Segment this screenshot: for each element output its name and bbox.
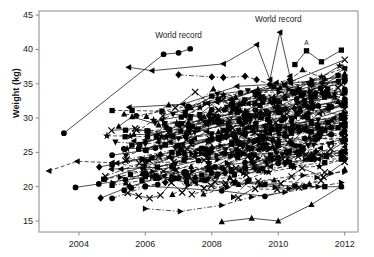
weight-vs-year-scatter-chart: Weight (kg) 1520253035404520042006200820… bbox=[0, 0, 374, 257]
data-point-square bbox=[289, 163, 294, 168]
data-point-square bbox=[269, 127, 274, 132]
y-axis-tick-label: 20 bbox=[23, 182, 33, 192]
chart-canvas: 1520253035404520042006200820102012World … bbox=[0, 0, 374, 257]
data-point-square bbox=[129, 108, 134, 113]
data-point-triangle-left bbox=[253, 42, 259, 48]
data-point-circle bbox=[249, 125, 255, 131]
x-axis-tick-label: 2010 bbox=[268, 239, 288, 249]
data-point-square bbox=[339, 47, 344, 52]
data-point-diamond bbox=[96, 163, 103, 170]
data-point-triangle-right bbox=[219, 202, 225, 208]
data-point-square bbox=[139, 157, 144, 162]
data-point-triangle-left bbox=[149, 68, 155, 74]
data-point-circle bbox=[109, 196, 115, 202]
y-axis-tick-label: 40 bbox=[23, 44, 33, 54]
annotation-world-record: World record bbox=[255, 15, 302, 24]
annotation-label-b: B bbox=[331, 96, 335, 103]
data-point-circle bbox=[109, 152, 115, 158]
data-point-square bbox=[203, 178, 208, 183]
data-point-x bbox=[136, 193, 142, 199]
data-point-circle bbox=[121, 146, 127, 152]
annotation-label-a: A bbox=[304, 39, 309, 46]
data-point-square bbox=[163, 142, 168, 147]
data-point-circle bbox=[249, 145, 255, 151]
data-point-square bbox=[282, 133, 287, 138]
data-point-square bbox=[229, 142, 234, 147]
data-point-circle bbox=[275, 140, 281, 146]
data-point-circle bbox=[123, 177, 129, 183]
y-axis-tick-label: 30 bbox=[23, 113, 33, 123]
x-axis-tick-label: 2006 bbox=[135, 239, 155, 249]
y-axis-tick-label: 25 bbox=[23, 147, 33, 157]
data-point-diamond bbox=[209, 73, 216, 80]
data-point-square bbox=[292, 183, 297, 188]
data-point-circle bbox=[329, 132, 335, 138]
data-point-square bbox=[257, 103, 262, 108]
data-point-square bbox=[322, 160, 327, 165]
data-point-triangle-up bbox=[210, 85, 216, 91]
data-point-square bbox=[136, 146, 141, 151]
data-point-square bbox=[109, 183, 114, 188]
data-point-square bbox=[319, 59, 324, 64]
data-point-square bbox=[262, 182, 267, 187]
data-point-triangle-left bbox=[46, 168, 52, 174]
series-line bbox=[222, 186, 342, 222]
data-point-square bbox=[335, 73, 340, 78]
data-point-square bbox=[256, 137, 261, 142]
data-point-triangle-left bbox=[74, 158, 80, 164]
data-point-triangle-left bbox=[125, 64, 131, 70]
data-point-circle bbox=[339, 184, 345, 190]
data-point-square bbox=[149, 155, 154, 160]
data-point-square bbox=[209, 93, 214, 98]
data-point-square bbox=[143, 174, 148, 179]
data-point-circle bbox=[73, 185, 79, 191]
data-series bbox=[292, 47, 344, 67]
data-point-circle bbox=[182, 169, 188, 175]
data-point-x bbox=[322, 169, 328, 175]
data-point-circle bbox=[96, 181, 102, 187]
data-point-triangle-left bbox=[234, 83, 240, 89]
y-axis-tick-label: 15 bbox=[23, 216, 33, 226]
data-point-circle bbox=[262, 193, 268, 199]
series-line bbox=[295, 50, 342, 64]
data-point-circle bbox=[342, 128, 348, 134]
data-point-circle bbox=[142, 183, 148, 189]
data-point-square bbox=[309, 129, 314, 134]
data-point-square bbox=[186, 129, 191, 134]
x-axis-tick-label: 2012 bbox=[335, 239, 355, 249]
data-point-square bbox=[208, 149, 213, 154]
data-point-square bbox=[189, 139, 194, 144]
data-point-circle bbox=[275, 155, 281, 161]
data-point-circle bbox=[161, 51, 167, 57]
data-point-circle bbox=[169, 164, 175, 170]
data-point-diamond bbox=[175, 71, 182, 78]
data-point-triangle-up bbox=[121, 111, 127, 117]
data-point-circle bbox=[212, 164, 218, 170]
data-point-x bbox=[192, 89, 198, 95]
data-point-triangle-up bbox=[116, 123, 122, 129]
data-point-square bbox=[325, 120, 330, 125]
data-point-circle bbox=[196, 158, 202, 164]
data-point-triangle-left bbox=[220, 61, 226, 67]
data-point-triangle-right bbox=[143, 206, 149, 212]
data-point-x bbox=[342, 57, 348, 63]
data-point-square bbox=[101, 177, 106, 182]
data-point-square bbox=[109, 108, 114, 113]
data-point-triangle-right bbox=[178, 208, 184, 214]
data-series bbox=[125, 29, 292, 83]
data-point-triangle-up bbox=[249, 215, 255, 221]
data-point-square bbox=[304, 48, 309, 53]
data-point-square bbox=[183, 110, 188, 115]
data-point-triangle-down bbox=[142, 142, 148, 148]
data-point-circle bbox=[222, 151, 228, 157]
data-point-square bbox=[159, 109, 164, 114]
data-point-square bbox=[216, 135, 221, 140]
y-axis-tick-label: 35 bbox=[23, 79, 33, 89]
data-point-circle bbox=[152, 173, 158, 179]
data-point-diamond bbox=[220, 74, 227, 81]
data-point-square bbox=[128, 172, 133, 177]
data-point-diamond bbox=[242, 72, 249, 79]
data-point-triangle-up bbox=[169, 191, 175, 197]
data-point-circle bbox=[275, 161, 281, 167]
annotation-world-record: World record bbox=[155, 31, 202, 40]
